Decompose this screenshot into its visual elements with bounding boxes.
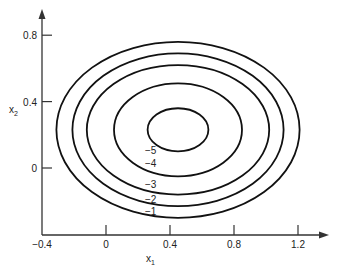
x-tick-label: −0.4 xyxy=(32,239,52,250)
contour-level-2 xyxy=(72,53,283,206)
x-tick-label: 0.8 xyxy=(227,239,241,250)
contour-level-1 xyxy=(56,42,299,218)
contour-label: −4 xyxy=(145,158,157,169)
x-tick-label: 0 xyxy=(103,239,109,250)
y-tick-label: 0.8 xyxy=(23,30,37,41)
contour-label: −3 xyxy=(145,179,157,190)
y-ticks: 00.40.8 xyxy=(23,30,52,174)
x-axis-label: x1 xyxy=(146,253,155,266)
y-axis-arrow-icon xyxy=(39,9,46,19)
contour-level-5 xyxy=(148,108,209,151)
axes xyxy=(39,9,330,239)
contour-labels: −5−4−3−2−1 xyxy=(145,145,157,217)
x-tick-label: 0.4 xyxy=(163,239,177,250)
contour-level-4 xyxy=(114,83,242,176)
contour-lines xyxy=(56,42,299,218)
y-tick-label: 0 xyxy=(31,163,37,174)
contour-label: −2 xyxy=(145,194,157,205)
contour-label: −5 xyxy=(145,145,157,156)
x-ticks: −0.400.40.81.2 xyxy=(32,225,305,250)
x-tick-label: 1.2 xyxy=(291,239,305,250)
contour-plot: −0.400.40.81.2 00.40.8 −5−4−3−2−1 x1 x2 xyxy=(0,0,338,270)
x-axis-arrow-icon xyxy=(319,232,329,239)
y-tick-label: 0.4 xyxy=(23,97,37,108)
contour-label: −1 xyxy=(145,206,157,217)
y-axis-label: x2 xyxy=(9,104,18,117)
